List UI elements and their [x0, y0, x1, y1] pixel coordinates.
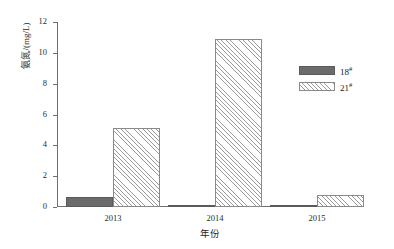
- x-tick-label: 2013: [105, 213, 122, 224]
- y-tick-label: 0: [23, 201, 47, 212]
- bar-21-2014: [215, 39, 262, 207]
- bar-18-2014: [168, 205, 215, 207]
- bar-21-2015: [317, 195, 364, 207]
- plot-area: 024681012 201320142015: [57, 22, 363, 207]
- legend: 18#21#: [299, 64, 352, 96]
- y-tick-label: 4: [23, 139, 47, 150]
- legend-label-18: 18#: [340, 63, 352, 78]
- legend-swatch-18: [299, 66, 335, 75]
- bar-groups: [57, 22, 363, 207]
- y-axis-label: 氨氮/(mg/L): [21, 0, 32, 106]
- x-axis-label: 年份: [57, 228, 363, 240]
- y-tick-label: 2: [23, 170, 47, 181]
- legend-label-21: 21#: [340, 79, 352, 94]
- bar-18-2015: [270, 205, 317, 207]
- bar-18-2013: [66, 197, 113, 207]
- y-tick-label: 6: [23, 109, 47, 120]
- y-tick-mark: [53, 207, 57, 208]
- bar-21-2013: [113, 128, 160, 207]
- x-tick-label: 2015: [309, 213, 326, 224]
- x-tick-label: 2014: [207, 213, 224, 224]
- legend-swatch-21: [299, 82, 335, 91]
- legend-item-18: 18#: [299, 64, 352, 77]
- legend-item-21: 21#: [299, 80, 352, 93]
- bar-chart: 024681012 201320142015 氨氮/(mg/L) 年份 18#2…: [0, 0, 394, 249]
